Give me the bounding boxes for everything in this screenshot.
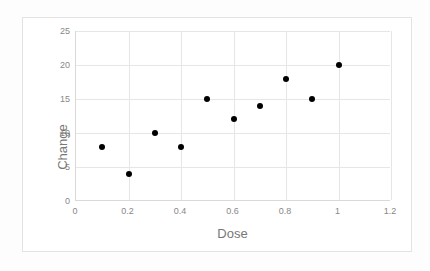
x-axis-tick-label: 1 [318,206,358,216]
gridline-vertical [286,31,287,200]
gridline-vertical [391,31,392,200]
plot-area [75,31,390,201]
data-point [309,96,315,102]
x-axis-tick-label: 0.2 [108,206,148,216]
x-axis-tick-labels: 00.20.40.60.811.2 [75,206,390,220]
data-point [257,103,263,109]
data-point [231,116,237,122]
x-axis-tick-label: 1.2 [370,206,410,216]
y-axis-title: Change [55,62,71,232]
data-point [283,76,289,82]
x-axis-tick-label: 0.6 [213,206,253,216]
gridline-vertical [339,31,340,200]
data-point [99,144,105,150]
data-point [336,62,342,68]
data-point [126,171,132,177]
x-axis-tick-label: 0.8 [265,206,305,216]
y-axis-title-wrapper: Change [28,31,48,201]
y-axis-tick-label: 25 [60,26,70,36]
x-axis-tick-label: 0.4 [160,206,200,216]
data-point [204,96,210,102]
scatter-chart: 0510152025 00.20.40.60.811.2 Dose Change [0,0,430,271]
x-axis-title: Dose [75,226,390,242]
data-point [178,144,184,150]
gridline-vertical [181,31,182,200]
data-point [152,130,158,136]
